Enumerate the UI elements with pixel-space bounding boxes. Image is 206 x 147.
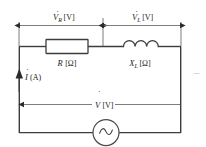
- label-resistor: R[Ω]: [57, 58, 77, 68]
- label-voltage-resistor-text: VR[V]: [53, 12, 75, 23]
- label-resistor-text: R[Ω]: [57, 58, 77, 68]
- label-current: · I(A): [24, 64, 41, 82]
- label-voltage-resistor-subscript: R: [57, 17, 62, 23]
- current-arrow: [16, 69, 23, 93]
- label-inductor: XL[Ω]: [128, 58, 151, 69]
- label-total-voltage: · V[V]: [95, 86, 114, 110]
- label-total-voltage-symbol: V: [95, 100, 102, 110]
- page-edge-artifact: 一: [193, 70, 200, 78]
- label-total-voltage-unit: [V]: [102, 101, 113, 110]
- label-total-voltage-text: V[V]: [95, 100, 114, 110]
- label-inductor-unit: [Ω]: [139, 59, 151, 68]
- label-voltage-inductor-text: VL[V]: [132, 12, 154, 23]
- label-total-voltage-dot: ·: [98, 86, 101, 96]
- inductor-symbol: [121, 41, 159, 47]
- ac-source-symbol: [93, 120, 119, 146]
- label-current-text: I(A): [24, 72, 41, 82]
- label-inductor-text: XL[Ω]: [128, 58, 151, 69]
- label-voltage-inductor-subscript: L: [136, 17, 141, 23]
- label-resistor-unit: [Ω]: [65, 59, 77, 68]
- label-resistor-symbol: R: [57, 58, 64, 68]
- label-voltage-resistor: · VR[V]: [53, 6, 75, 23]
- label-voltage-inductor-unit: [V]: [142, 13, 153, 22]
- label-inductor-subscript: L: [133, 63, 138, 69]
- label-current-unit: (A): [30, 73, 41, 82]
- label-voltage-inductor: · VL[V]: [132, 6, 154, 23]
- label-voltage-resistor-unit: [V]: [63, 13, 74, 22]
- circuit-diagram-canvas: · VR[V] · VL[V]: [0, 0, 206, 147]
- resistor-symbol: [46, 40, 88, 54]
